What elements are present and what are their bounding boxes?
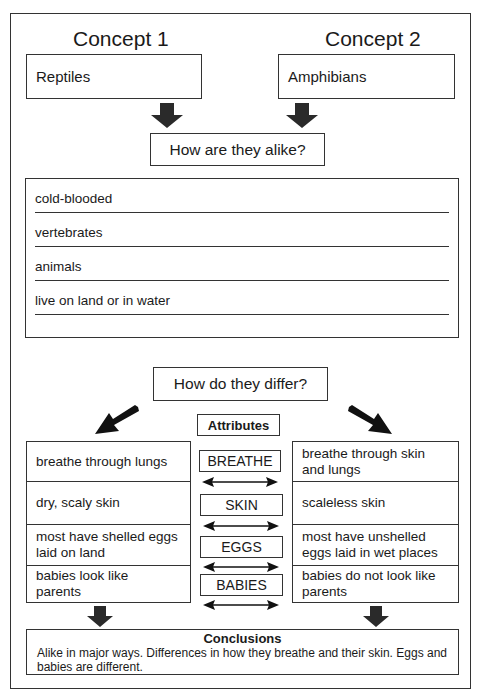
attribute-box: SKIN — [200, 494, 283, 516]
attributes-heading-box: Attributes — [197, 414, 280, 436]
attributes-heading: Attributes — [208, 418, 269, 433]
difference-text: scaleless skin — [302, 495, 385, 511]
attribute-box: BABIES — [200, 574, 283, 596]
difference-cell: breathe through skin and lungs — [293, 442, 458, 482]
attribute-box: EGGS — [200, 536, 283, 558]
concept-2-value: Amphibians — [288, 68, 366, 85]
difference-text: dry, scaly skin — [36, 495, 120, 511]
double-arrow-icon — [202, 477, 278, 487]
difference-cell: babies do not look like parents — [293, 566, 458, 602]
differ-question-box: How do they differ? — [153, 367, 328, 401]
down-arrow-icon — [150, 103, 184, 129]
difference-cell: babies look like parents — [27, 566, 190, 602]
concept-1-heading: Concept 1 — [73, 27, 169, 51]
difference-text: breathe through lungs — [36, 454, 167, 470]
concept-1-box: Reptiles — [26, 54, 202, 99]
alike-list: cold-blooded vertebrates animals live on… — [25, 178, 459, 338]
difference-text: most have unshelled eggs laid in wet pla… — [302, 529, 452, 561]
alike-question: How are they alike? — [169, 141, 305, 159]
alike-item-text: vertebrates — [35, 225, 103, 240]
double-arrow-icon — [203, 600, 279, 610]
down-arrow-icon — [86, 606, 114, 628]
difference-cell: scaleless skin — [293, 482, 458, 525]
concept-1-value: Reptiles — [36, 68, 90, 85]
difference-text: breathe through skin and lungs — [302, 446, 437, 478]
conclusions-text: Alike in major ways. Differences in how … — [37, 646, 448, 674]
attribute-label: EGGS — [221, 539, 261, 555]
attribute-box: BREATHE — [199, 450, 281, 472]
difference-text: most have shelled eggs laid on land — [36, 529, 186, 561]
concept-2-heading: Concept 2 — [325, 27, 421, 51]
difference-cell: breathe through lungs — [27, 442, 190, 482]
conclusions-title: Conclusions — [37, 631, 448, 646]
diagonal-arrow-left-icon — [95, 405, 140, 435]
conclusions-box: Conclusions Alike in major ways. Differe… — [26, 629, 459, 675]
alike-question-box: How are they alike? — [150, 133, 325, 166]
alike-item: live on land or in water — [35, 281, 449, 315]
difference-text: babies do not look like parents — [302, 568, 447, 600]
down-arrow-icon — [362, 606, 390, 628]
diagonal-arrow-right-icon — [347, 405, 392, 435]
down-arrow-icon — [285, 103, 319, 129]
difference-cell: most have shelled eggs laid on land — [27, 525, 190, 566]
double-arrow-icon — [203, 562, 279, 572]
alike-item: animals — [35, 247, 449, 281]
difference-text: babies look like parents — [36, 568, 146, 600]
difference-cell: dry, scaly skin — [27, 482, 190, 525]
alike-item-text: live on land or in water — [35, 293, 170, 308]
concept-2-differences: breathe through skin and lungs scaleless… — [292, 441, 459, 603]
attribute-label: BABIES — [216, 577, 267, 593]
concept-1-differences: breathe through lungs dry, scaly skin mo… — [26, 441, 191, 603]
differ-question: How do they differ? — [174, 375, 307, 393]
alike-item-text: animals — [35, 259, 82, 274]
alike-item: vertebrates — [35, 213, 449, 247]
attribute-label: SKIN — [225, 497, 258, 513]
double-arrow-icon — [203, 521, 279, 531]
difference-cell: most have unshelled eggs laid in wet pla… — [293, 525, 458, 566]
attribute-label: BREATHE — [207, 453, 272, 469]
alike-item: cold-blooded — [35, 179, 449, 213]
alike-item-text: cold-blooded — [35, 191, 112, 206]
concept-2-box: Amphibians — [278, 54, 455, 99]
